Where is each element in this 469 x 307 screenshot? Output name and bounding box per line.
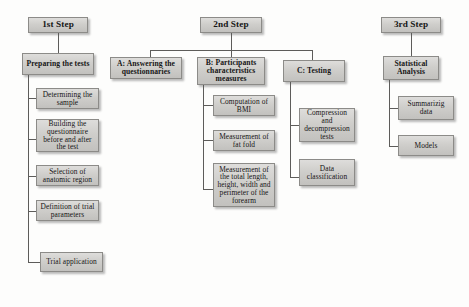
node-data-classification[interactable]: Data classification	[299, 159, 355, 186]
node-statistical-analysis-label: Statistical Analysis	[386, 60, 436, 76]
node-1st-step[interactable]: 1st Step	[28, 17, 88, 33]
connector-branch-b-stub-3	[203, 189, 213, 190]
connector-step3-trunk	[389, 80, 390, 146]
node-statistical-analysis[interactable]: Statistical Analysis	[383, 56, 439, 80]
node-measurement-forearm-dimensions-label: Measurement of the total length, height,…	[216, 166, 272, 205]
node-1st-step-label: 1st Step	[31, 20, 85, 30]
node-selection-of-anatomic-region[interactable]: Selection of anatomic region	[36, 165, 99, 186]
connector-step2-drop-a	[150, 50, 151, 57]
node-trial-application[interactable]: Trial application	[40, 252, 103, 272]
connector-step3-stub-2	[389, 146, 398, 147]
node-branch-a-answering-questionnaries[interactable]: A: Answering the questionnaries	[110, 57, 182, 79]
methodology-flowchart: 1st Step Preparing the tests Determining…	[0, 0, 469, 307]
connector-step1-head-to-root	[58, 33, 59, 53]
node-trial-application-label: Trial application	[43, 258, 100, 266]
node-building-the-questionnaire-label: Building the questionnaire before and af…	[39, 120, 96, 151]
connector-step3-head-to-root	[411, 33, 412, 56]
connector-step2-drop-c	[312, 50, 313, 60]
node-measurement-of-fat-fold-label: Measurement of fat fold	[216, 133, 272, 149]
node-preparing-the-tests-label: Preparing the tests	[25, 60, 91, 68]
connector-step1-stub-1	[28, 98, 36, 99]
node-measurement-of-fat-fold[interactable]: Measurement of fat fold	[213, 130, 275, 151]
node-2nd-step-label: 2nd Step	[203, 20, 259, 30]
connector-step1-stub-5	[28, 262, 40, 263]
node-computation-of-bmi[interactable]: Computation of BMI	[213, 95, 275, 116]
connector-step2-head-down	[231, 33, 232, 50]
node-computation-of-bmi-label: Computation of BMI	[216, 98, 272, 114]
node-determining-the-sample-label: Determining the sample	[39, 91, 96, 107]
node-definition-of-trial-parameters[interactable]: Definition of trial parameters	[36, 200, 99, 221]
node-3rd-step[interactable]: 3rd Step	[381, 17, 441, 33]
node-determining-the-sample[interactable]: Determining the sample	[36, 88, 99, 109]
node-data-classification-label: Data classification	[302, 165, 352, 181]
node-measurement-forearm-dimensions[interactable]: Measurement of the total length, height,…	[213, 163, 275, 207]
connector-branch-b-trunk	[203, 85, 204, 189]
node-preparing-the-tests[interactable]: Preparing the tests	[22, 53, 94, 75]
connector-branch-c-stub-2	[290, 177, 299, 178]
connector-step1-stub-3	[28, 176, 36, 177]
node-branch-b-participants-characteristics[interactable]: B: Participants characteristics measures	[197, 57, 265, 85]
node-summarizig-data-label: Summarizig data	[401, 100, 451, 116]
node-compression-decompression-tests[interactable]: Compression and decompression tests	[299, 108, 355, 142]
node-definition-of-trial-parameters-label: Definition of trial parameters	[39, 203, 96, 219]
node-summarizig-data[interactable]: Summarizig data	[398, 96, 454, 120]
node-branch-a-label: A: Answering the questionnaries	[113, 60, 179, 76]
node-building-the-questionnaire[interactable]: Building the questionnaire before and af…	[36, 119, 99, 152]
node-models-label: Models	[401, 142, 451, 150]
node-3rd-step-label: 3rd Step	[384, 20, 438, 30]
connector-step3-stub-1	[389, 108, 398, 109]
node-selection-of-anatomic-region-label: Selection of anatomic region	[39, 168, 96, 184]
node-models[interactable]: Models	[398, 135, 454, 156]
connector-step2-drop-b	[231, 50, 232, 57]
connector-branch-b-stub-1	[203, 105, 213, 106]
connector-step1-trunk	[28, 75, 29, 262]
connector-branch-c-stub-1	[290, 125, 299, 126]
node-branch-c-testing[interactable]: C: Testing	[283, 60, 345, 82]
node-branch-c-label: C: Testing	[286, 67, 342, 75]
connector-branch-c-trunk	[290, 82, 291, 177]
connector-branch-b-stub-2	[203, 140, 213, 141]
connector-step1-stub-4	[28, 211, 36, 212]
connector-step1-stub-2	[28, 139, 36, 140]
node-2nd-step[interactable]: 2nd Step	[200, 17, 262, 33]
node-branch-b-label: B: Participants characteristics measures	[200, 59, 262, 83]
node-compression-decompression-tests-label: Compression and decompression tests	[302, 109, 352, 140]
